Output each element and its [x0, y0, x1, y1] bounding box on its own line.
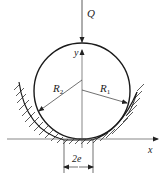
- r1-label: R1: [99, 82, 111, 96]
- seat-surface: [19, 82, 137, 140]
- y-axis-label: y: [73, 47, 79, 58]
- load-label: Q: [87, 7, 95, 19]
- contact-diagram: Q y x R2 R1 2e: [0, 0, 163, 178]
- r2-label: R2: [52, 82, 64, 96]
- contact-width-label: 2e: [72, 153, 82, 164]
- x-axis-label: x: [147, 144, 153, 155]
